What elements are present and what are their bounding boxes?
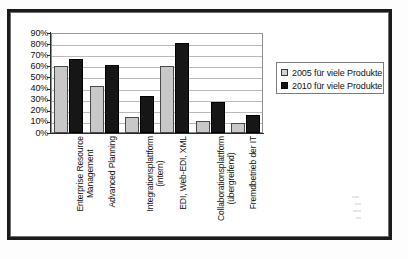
legend-swatch-2010-icon	[281, 82, 288, 89]
bar-2005	[160, 66, 174, 133]
x-axis-category-label: Collaborationsplattform(übergreifend)	[216, 136, 236, 221]
x-axis-category-label: Fremdbetrieb der IT	[248, 136, 258, 209]
y-axis-tick-label: 90%	[31, 29, 48, 38]
y-axis-tick-labels: 90%80%70%60%50%40%30%20%10%0%	[0, 0, 48, 259]
y-axis-tick-mark	[47, 133, 50, 134]
bar-2005	[125, 117, 139, 133]
bar-group	[90, 33, 119, 133]
scan-artifact	[355, 203, 361, 205]
y-axis-tick-mark	[47, 111, 50, 112]
legend-label-2010: 2010 für viele Produkte	[292, 81, 382, 91]
bar-2010	[175, 43, 189, 133]
y-axis-tick-mark	[47, 89, 50, 90]
bar-group	[160, 33, 189, 133]
y-axis-tick-mark	[47, 44, 50, 45]
x-axis-category-label: Advanced Planning	[107, 136, 117, 208]
y-axis-tick-label: 70%	[31, 51, 48, 60]
y-axis-tick-label: 30%	[31, 95, 48, 104]
legend-item-2010: 2010 für viele Produkte	[281, 79, 379, 92]
bar-2010	[211, 102, 225, 133]
scan-artifact	[352, 196, 359, 198]
legend-item-2005: 2005 für viele Produkte	[281, 66, 379, 79]
bar-2005	[231, 123, 245, 133]
y-axis-tick-label: 10%	[31, 117, 48, 126]
bar-group	[54, 33, 83, 133]
bar-2010	[246, 115, 260, 133]
scan-artifact	[353, 210, 361, 212]
scan-artifact	[356, 217, 361, 219]
y-axis-tick-label: 80%	[31, 40, 48, 49]
y-axis-tick-mark	[47, 33, 50, 34]
y-axis-tick-mark	[47, 77, 50, 78]
legend-label-2005: 2005 für viele Produkte	[292, 68, 382, 78]
y-axis-tick-label: 60%	[31, 62, 48, 71]
bar-group	[196, 33, 225, 133]
x-axis-category-labels: Enterprise ResourceManagementAdvanced Pl…	[51, 136, 263, 248]
bar-2010	[105, 65, 119, 133]
chart-legend: 2005 für viele Produkte 2010 für viele P…	[276, 62, 384, 94]
y-axis-tick-label: 40%	[31, 84, 48, 93]
bar-group	[125, 33, 154, 133]
y-axis-tick-label: 50%	[31, 73, 48, 82]
bar-group	[231, 33, 260, 133]
x-axis-line	[50, 133, 264, 134]
y-axis-tick-mark	[47, 100, 50, 101]
bar-2010	[140, 96, 154, 133]
y-axis-tick-mark	[47, 122, 50, 123]
y-axis-tick-mark	[47, 55, 50, 56]
x-axis-category-label: EDI, Web-EDI, XML	[178, 136, 188, 210]
y-axis-tick-label: 20%	[31, 106, 48, 115]
y-axis-tick-mark	[47, 66, 50, 67]
bar-2005	[196, 121, 210, 133]
x-axis-category-label: Integrationsplattform(intern)	[145, 136, 165, 211]
bar-series-container	[51, 33, 263, 133]
bar-2005	[54, 66, 68, 133]
x-axis-category-label: Enterprise ResourceManagement	[75, 136, 95, 212]
bar-2005	[90, 86, 104, 133]
bar-2010	[69, 59, 83, 133]
legend-swatch-2005-icon	[281, 69, 288, 76]
chart-figure: 90%80%70%60%50%40%30%20%10%0% Enterprise…	[0, 0, 408, 259]
